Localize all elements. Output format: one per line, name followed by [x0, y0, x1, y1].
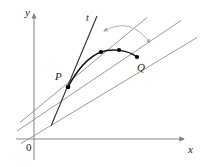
point-p-label: P	[55, 71, 62, 82]
tangent-line-label: t	[86, 13, 89, 23]
function-curve	[68, 50, 137, 87]
secant-lines-group	[17, 18, 197, 144]
secant-line-1	[20, 18, 147, 123]
secant-tangent-figure: y x 0 P Q t	[0, 0, 204, 167]
point-q1-dot	[99, 50, 103, 54]
origin-label: 0	[26, 142, 32, 153]
point-p-dot	[66, 85, 71, 90]
secant-line-3	[21, 38, 197, 144]
secant-line-2	[17, 21, 181, 132]
x-axis-label: x	[188, 144, 193, 155]
point-q-dot	[135, 55, 139, 59]
y-axis-label: y	[25, 7, 30, 18]
point-q-label: Q	[137, 62, 145, 73]
point-q2-dot	[117, 48, 121, 52]
